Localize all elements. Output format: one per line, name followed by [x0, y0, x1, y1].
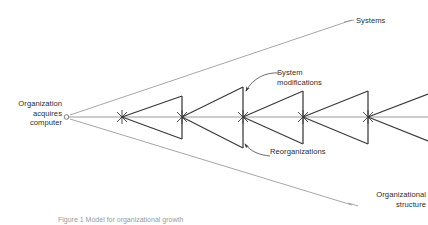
- triangle-3-lower-edge: [243, 117, 303, 144]
- systems-leader-line: [344, 20, 354, 22]
- figure-root: Organization acquires computer Systems O…: [0, 0, 428, 225]
- label-organization-acquires-computer: Organization acquires computer: [2, 99, 62, 128]
- triangle-2-lower-edge: [182, 117, 243, 148]
- label-system-modifications: System modifications: [277, 68, 322, 87]
- triangle-1-lower-edge: [122, 117, 182, 139]
- callout-reorganizations: [245, 144, 270, 156]
- triangle-4-upper-edge: [303, 91, 368, 117]
- triangle-1-upper-edge: [122, 96, 182, 117]
- triangle-2-upper-edge: [182, 87, 243, 117]
- callout-system-modifications: [246, 73, 279, 91]
- triangle-3-upper-edge: [243, 91, 303, 117]
- label-reorganizations: Reorganizations: [270, 147, 326, 157]
- origin-circle-marker: [64, 115, 69, 120]
- reorganizations-leader-line: [245, 144, 270, 156]
- envelope-lines: [70, 20, 352, 205]
- label-systems: Systems: [356, 16, 385, 26]
- outer-label-leaders: [344, 20, 358, 206]
- triangle-4-lower-edge: [303, 117, 368, 144]
- trailing-ray-upper: [368, 94, 428, 117]
- figure-caption: Figure 1 Model for organizational growth: [58, 216, 388, 225]
- trailing-ray-lower: [368, 117, 428, 141]
- label-organizational-structure: Organizational structure: [360, 190, 426, 209]
- system-modifications-leader-line: [246, 73, 279, 91]
